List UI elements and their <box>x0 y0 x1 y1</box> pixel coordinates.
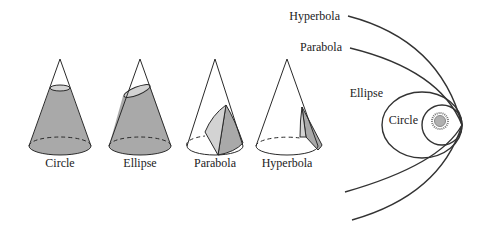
orbit-label-parabola: Parabola <box>300 40 343 54</box>
cone-circle: Circle <box>29 59 91 170</box>
cone-label-hyperbola: Hyperbola <box>262 156 313 170</box>
cone-label-parabola: Parabola <box>194 156 237 170</box>
conic-sections-diagram: Circle Ellipse Parabola Hyperbola <box>0 0 482 236</box>
orbit-label-circle: Circle <box>389 113 418 127</box>
cone-label-ellipse: Ellipse <box>123 156 156 170</box>
orbit-label-ellipse: Ellipse <box>350 86 383 100</box>
cone-hyperbola: Hyperbola <box>256 59 322 170</box>
orbit-label-hyperbola: Hyperbola <box>289 9 340 23</box>
orbit-diagram: Hyperbola Parabola Ellipse Circle <box>289 9 462 220</box>
cone-label-circle: Circle <box>45 156 74 170</box>
sun-icon <box>432 113 448 129</box>
cone-ellipse: Ellipse <box>109 59 171 170</box>
cone-parabola: Parabola <box>187 59 243 170</box>
